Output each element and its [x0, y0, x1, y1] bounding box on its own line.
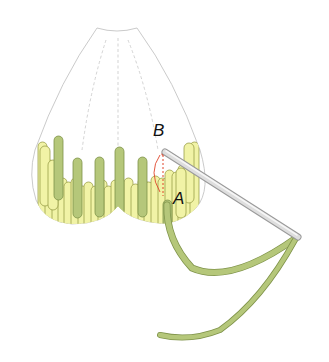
diagram-canvas: B A [0, 0, 329, 362]
label-point-a: A [172, 189, 184, 208]
label-point-b: B [153, 121, 164, 140]
dashed-guide-lines [82, 38, 158, 150]
